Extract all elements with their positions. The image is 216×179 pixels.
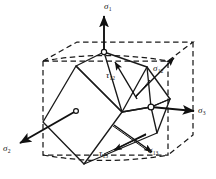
label-sigma-13: σ13 xyxy=(148,146,158,155)
label-tau-13-sub: 13 xyxy=(103,153,109,159)
label-sigma-3: σ3 xyxy=(198,106,205,115)
marker-left-face xyxy=(74,109,79,114)
axis-arrow-sigma-3 xyxy=(151,107,194,111)
label-sigma-13-symbol: σ xyxy=(148,145,152,155)
figure-drawing xyxy=(0,0,216,179)
label-sigma-1-symbol: σ xyxy=(104,1,108,11)
label-tau-12: τ12 xyxy=(106,71,115,80)
label-sigma-2-sub: 2 xyxy=(8,148,11,154)
axis-arrow-sigma-2 xyxy=(20,111,76,143)
label-tau-13: τ13 xyxy=(99,149,108,158)
label-sigma-13-sub: 13 xyxy=(153,150,159,156)
label-sigma-3-symbol: σ xyxy=(198,105,202,115)
label-tau-12-symbol: τ xyxy=(106,70,109,80)
guide-lines-lower xyxy=(104,126,151,154)
label-sigma-2-symbol: σ xyxy=(3,143,7,153)
label-tau-13-symbol: τ xyxy=(99,148,102,158)
marker-right-vertex xyxy=(148,104,154,110)
label-sigma-3-sub: 3 xyxy=(203,110,206,116)
label-sigma-2: σ2 xyxy=(3,144,10,153)
component-arrow-tau-12 xyxy=(115,62,137,99)
label-sigma-12: σ12 xyxy=(153,64,163,73)
label-tau-12-sub: 12 xyxy=(110,75,116,81)
label-sigma-12-sub: 12 xyxy=(158,68,164,74)
label-sigma-1: σ1 xyxy=(104,2,111,11)
stress-cube-figure: σ1 σ2 σ3 σ12 σ13 τ12 τ13 xyxy=(0,0,216,179)
marker-top-vertex xyxy=(101,49,106,54)
label-sigma-1-sub: 1 xyxy=(109,6,112,12)
label-sigma-12-symbol: σ xyxy=(153,63,157,73)
